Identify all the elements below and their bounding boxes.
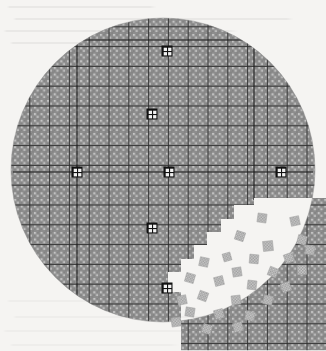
scattered-die xyxy=(213,308,224,319)
figure-root: Wafer die map with partially removed qua… xyxy=(0,0,326,351)
scattered-die xyxy=(263,241,274,252)
scattered-die xyxy=(184,272,195,283)
scattered-die xyxy=(185,307,195,317)
marker-upper-center[interactable] xyxy=(147,109,158,120)
scattered-die xyxy=(197,290,209,302)
scattered-die xyxy=(233,322,244,333)
marker-lower-center[interactable] xyxy=(147,223,158,234)
wafer-diagram xyxy=(0,0,326,351)
scattered-die xyxy=(305,245,315,255)
marker-top[interactable] xyxy=(162,46,173,57)
scattered-die xyxy=(257,213,267,223)
scattered-die xyxy=(263,295,274,306)
scattered-die xyxy=(247,280,257,290)
scattered-die xyxy=(297,265,307,275)
marker-left[interactable] xyxy=(72,167,83,178)
wafer-body xyxy=(10,7,326,350)
marker-right[interactable] xyxy=(276,167,287,178)
scattered-die xyxy=(214,276,225,287)
scattered-die xyxy=(171,317,181,327)
scattered-die xyxy=(222,252,232,262)
scattered-die xyxy=(297,235,308,246)
scattered-die xyxy=(234,230,245,241)
scattered-die xyxy=(249,254,259,264)
scattered-die xyxy=(177,295,188,306)
marker-center[interactable] xyxy=(164,167,175,178)
scattered-die xyxy=(231,295,241,305)
marker-bottom[interactable] xyxy=(162,283,173,294)
scattered-die xyxy=(290,216,301,227)
scattered-die xyxy=(232,267,242,277)
scattered-die xyxy=(245,311,256,322)
wafer-map-figure xyxy=(0,0,326,351)
scattered-die xyxy=(199,257,210,268)
